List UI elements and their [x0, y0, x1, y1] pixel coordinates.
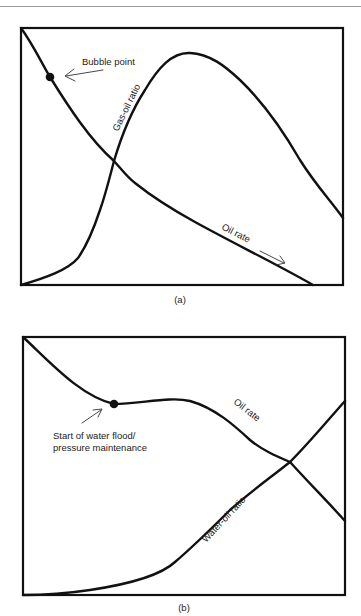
chart-panel-b: Start of water flood/ pressure maintenan… [23, 337, 345, 613]
water-oil-ratio-label: Water-oil ratio [199, 494, 247, 544]
water-flood-start-arrow-icon [82, 409, 102, 423]
water-flood-label-line2: pressure maintenance [53, 442, 147, 453]
caption-b: (b) [178, 602, 190, 613]
oil-rate-curve-b [23, 337, 345, 521]
plot-frame-a [21, 28, 343, 285]
water-flood-start-marker [110, 400, 119, 409]
oil-rate-curve-a [21, 28, 313, 285]
bubble-point-arrow-icon [65, 69, 103, 81]
plot-frame-b [23, 337, 345, 595]
bubble-point-label: Bubble point [82, 56, 135, 67]
water-flood-label-line1: Start of water flood/ [53, 430, 136, 441]
chart-panel-a: Bubble point Gas-oil ratio Oil rate (a) [21, 28, 343, 305]
bubble-point-marker [46, 73, 55, 82]
figure: Bubble point Gas-oil ratio Oil rate (a) … [0, 0, 361, 616]
caption-a: (a) [174, 294, 186, 305]
oil-rate-label-b: Oil rate [232, 396, 263, 424]
oil-rate-label-a: Oil rate [220, 221, 252, 245]
gas-oil-ratio-curve-a [21, 53, 343, 285]
